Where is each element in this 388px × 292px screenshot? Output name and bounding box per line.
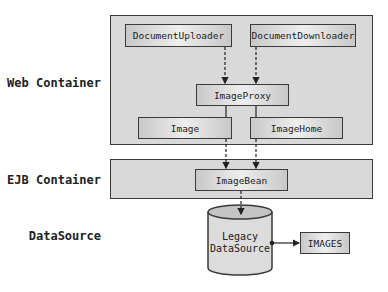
image-bean-box: ImageBean bbox=[195, 169, 288, 191]
image-home-box: ImageHome bbox=[250, 117, 343, 139]
document-downloader-box: DocumentDownloader bbox=[250, 24, 356, 47]
image-proxy-box: ImageProxy bbox=[196, 84, 289, 106]
images-table-box: IMAGES bbox=[300, 232, 350, 254]
document-uploader-box: DocumentUploader bbox=[125, 24, 232, 47]
image-box: Image bbox=[138, 117, 232, 139]
legacy-line2: DataSource bbox=[208, 243, 272, 255]
legacy-line1: Legacy bbox=[208, 231, 272, 243]
legacy-datasource-cylinder-label: Legacy DataSource bbox=[208, 231, 272, 255]
